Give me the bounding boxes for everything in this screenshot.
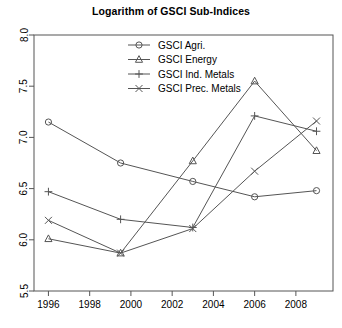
data-point xyxy=(45,235,52,242)
chart-figure: Logarithm of GSCI Sub-Indices 1996199820… xyxy=(0,0,342,328)
y-tick-label: 6.0 xyxy=(19,232,30,246)
series-1 xyxy=(45,77,320,256)
y-tick-label: 8.0 xyxy=(19,28,30,42)
plot-area: 19961998200020022004200620085.56.06.57.0… xyxy=(0,0,342,328)
y-tick-label: 5.5 xyxy=(19,284,30,298)
y-tick-label: 7.5 xyxy=(19,79,30,93)
x-tick-label: 2006 xyxy=(244,299,267,310)
legend: GSCI Agri.GSCI EnergyGSCI Ind. MetalsGSC… xyxy=(128,40,241,95)
data-point xyxy=(45,217,52,224)
x-tick-label: 2002 xyxy=(161,299,184,310)
legend-entry-0: GSCI Agri. xyxy=(128,40,205,51)
data-point xyxy=(189,224,197,232)
legend-label: GSCI Energy xyxy=(158,54,217,65)
legend-entry-2: GSCI Ind. Metals xyxy=(128,69,234,80)
legend-entry-1: GSCI Energy xyxy=(128,54,217,65)
legend-label: GSCI Agri. xyxy=(158,40,205,51)
data-point xyxy=(45,188,53,196)
data-point xyxy=(251,112,259,120)
x-tick-label: 2004 xyxy=(202,299,225,310)
x-tick-label: 2008 xyxy=(285,299,308,310)
legend-label: GSCI Ind. Metals xyxy=(158,69,234,80)
x-tick-label: 2000 xyxy=(120,299,143,310)
data-point xyxy=(313,118,320,125)
legend-entry-3: GSCI Prec. Metals xyxy=(128,83,241,94)
data-point xyxy=(117,215,125,223)
series-3 xyxy=(45,118,320,257)
series-2 xyxy=(45,112,321,231)
series-0 xyxy=(45,119,319,200)
x-tick-label: 1998 xyxy=(79,299,102,310)
x-tick-label: 1996 xyxy=(37,299,60,310)
data-point xyxy=(313,127,321,135)
y-tick-label: 7.0 xyxy=(19,130,30,144)
legend-label: GSCI Prec. Metals xyxy=(158,83,241,94)
data-series xyxy=(45,77,321,256)
y-tick-label: 6.5 xyxy=(19,181,30,195)
data-point xyxy=(251,168,258,175)
